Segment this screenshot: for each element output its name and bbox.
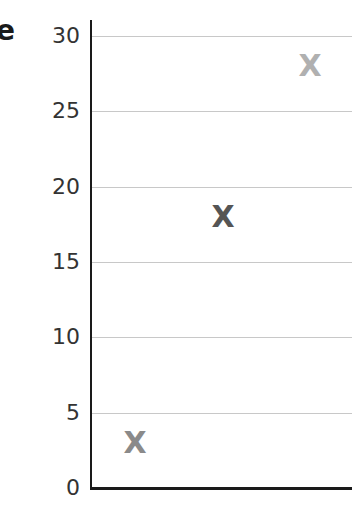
y-tick-label: 20	[30, 175, 80, 199]
y-tick-label: 5	[30, 401, 80, 425]
gridline	[92, 337, 352, 338]
scatter-plot: 051015202530XXX	[0, 0, 355, 525]
x-axis	[90, 487, 352, 490]
data-point-marker: X	[120, 428, 150, 458]
y-tick-label: 15	[30, 250, 80, 274]
gridline	[92, 262, 352, 263]
gridline	[92, 111, 352, 112]
gridline	[92, 187, 352, 188]
gridline	[92, 413, 352, 414]
y-tick-label: 10	[30, 325, 80, 349]
data-point-marker: X	[208, 202, 238, 232]
gridline	[92, 36, 352, 37]
data-point-marker: X	[295, 51, 325, 81]
y-tick-label: 30	[30, 24, 80, 48]
y-tick-label: 25	[30, 99, 80, 123]
y-tick-label: 0	[30, 476, 80, 500]
y-axis	[90, 20, 92, 490]
